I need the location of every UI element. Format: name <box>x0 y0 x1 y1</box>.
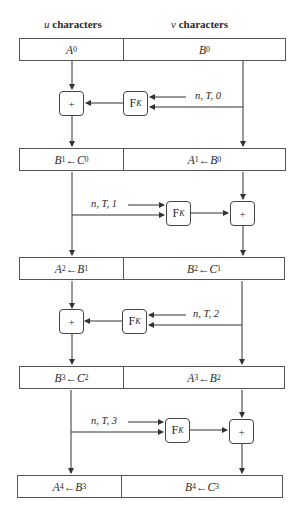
plus-operator-3: + <box>229 419 254 444</box>
state-row-1: B1 ← C0 A1 ← B0 <box>19 148 286 171</box>
state-cell-v-3: A3 ← B2 <box>124 367 284 388</box>
tweak-label-1: n, T, 1 <box>91 198 117 209</box>
plus-operator-0: + <box>59 91 84 116</box>
state-row-3: B3 ← C2 A3 ← B2 <box>19 366 285 389</box>
state-cell-v-1: A1 ← B0 <box>124 149 285 170</box>
state-cell-u-1: B1 ← C0 <box>20 149 124 170</box>
fk-function-0: FK <box>123 91 148 116</box>
fk-function-1: FK <box>166 201 191 226</box>
tweak-label-2: n, T, 2 <box>193 308 219 319</box>
state-row-4: A4 ← B3 B4 ← C3 <box>17 475 283 498</box>
state-cell-u-2: A2 ← B1 <box>20 258 124 279</box>
state-cell-v-2: B2 ← C1 <box>124 258 284 279</box>
state-cell-u-0: A0 <box>20 39 124 60</box>
plus-operator-1: + <box>230 201 255 226</box>
plus-operator-2: + <box>59 309 84 334</box>
state-cell-u-3: B3 ← C2 <box>20 367 124 388</box>
state-row-2: A2 ← B1 B2 ← C1 <box>19 257 285 280</box>
state-cell-v-4: B4 ← C3 <box>122 476 282 497</box>
fk-function-2: FK <box>122 309 147 334</box>
state-cell-u-4: A4 ← B3 <box>18 476 122 497</box>
fk-function-3: FK <box>165 418 190 443</box>
state-row-0: A0 B0 <box>19 38 286 61</box>
tweak-label-0: n, T, 0 <box>195 90 221 101</box>
state-cell-v-0: B0 <box>124 39 285 60</box>
tweak-label-3: n, T, 3 <box>91 415 117 426</box>
